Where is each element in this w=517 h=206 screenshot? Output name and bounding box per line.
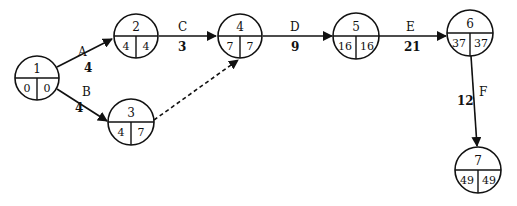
node-6-es: 37	[452, 37, 466, 50]
edge-dummy-3-4	[154, 60, 238, 120]
activity-F-name: F	[479, 85, 487, 99]
node-4: 4 7 7	[218, 14, 262, 58]
node-7-id: 7	[474, 154, 482, 168]
node-1: 1 0 0	[15, 56, 59, 100]
node-5-lf: 16	[360, 40, 374, 53]
node-4-lf: 7	[247, 40, 254, 53]
activity-A-duration: 4	[84, 61, 92, 75]
network-diagram: A 4 B 4 C 3 D 9 E 21 F 12 1 0 0 2 4 4 3 …	[0, 0, 517, 206]
node-5-id: 5	[352, 20, 360, 34]
node-3: 3 4 7	[108, 99, 154, 145]
node-1-id: 1	[33, 62, 41, 76]
node-2-id: 2	[132, 20, 140, 34]
activity-D-name: D	[290, 20, 300, 34]
activity-B-duration: 4	[75, 101, 83, 115]
node-7-lf: 49	[482, 174, 496, 187]
node-6-lf: 37	[474, 37, 488, 50]
node-7-es: 49	[460, 174, 474, 187]
node-7: 7 49 49	[455, 147, 501, 193]
activity-C-duration: 3	[178, 40, 186, 54]
node-2-es: 4	[123, 40, 130, 53]
activity-B-name: B	[82, 85, 91, 99]
node-2: 2 4 4	[114, 14, 158, 58]
node-3-id: 3	[127, 106, 135, 120]
activity-F-duration: 12	[457, 94, 474, 108]
node-1-lf: 0	[44, 82, 51, 95]
activity-A-name: A	[77, 45, 87, 59]
activity-E-duration: 21	[404, 40, 421, 54]
node-3-es: 4	[118, 126, 125, 139]
node-5: 5 16 16	[333, 13, 379, 59]
node-6: 6 37 37	[447, 10, 493, 56]
node-4-es: 7	[227, 40, 234, 53]
activity-C-name: C	[178, 20, 187, 34]
node-1-es: 0	[24, 82, 31, 95]
node-6-id: 6	[466, 17, 474, 31]
node-5-es: 16	[338, 40, 352, 53]
activity-E-name: E	[406, 20, 415, 34]
node-3-lf: 7	[138, 126, 145, 139]
node-4-id: 4	[236, 20, 244, 34]
activity-D-duration: 9	[291, 40, 299, 54]
node-2-lf: 4	[143, 40, 150, 53]
